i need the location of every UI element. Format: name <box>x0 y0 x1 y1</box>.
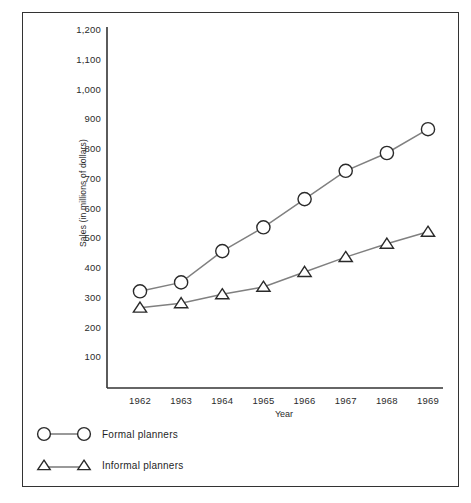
x-axis-title: Year <box>254 409 314 419</box>
data-point-circle <box>298 193 311 206</box>
x-tick-label: 1966 <box>285 395 325 406</box>
series-circle <box>133 123 434 298</box>
y-tick-label: 100 <box>53 351 101 362</box>
x-tick-label: 1967 <box>326 395 366 406</box>
data-point-triangle <box>298 266 311 276</box>
y-tick-label: 1,200 <box>53 24 101 35</box>
data-point-triangle <box>421 226 434 236</box>
series-triangle <box>133 226 434 312</box>
x-tick-label: 1964 <box>202 395 242 406</box>
y-tick-label: 1,000 <box>53 84 101 95</box>
data-point-triangle <box>257 281 270 291</box>
chart-frame: Sales (in millions of dollars) 100200300… <box>22 12 459 487</box>
x-tick-label: 1968 <box>367 395 407 406</box>
data-point-circle <box>421 123 434 136</box>
data-point-circle <box>216 245 229 258</box>
data-point-circle <box>257 221 270 234</box>
chart-figure: Sales (in millions of dollars) 100200300… <box>0 0 471 503</box>
data-point-triangle <box>339 251 352 261</box>
axis-lines <box>107 27 443 388</box>
y-tick-label: 300 <box>53 292 101 303</box>
y-tick-label: 1,100 <box>53 54 101 65</box>
legend-marker-triangle-icon <box>35 456 93 474</box>
legend-label-formal-planners: Formal planners <box>102 429 178 440</box>
legend-label-informal-planners: Informal planners <box>102 460 184 471</box>
y-tick-label: 700 <box>53 173 101 184</box>
data-point-circle <box>380 146 393 159</box>
x-tick-label: 1965 <box>243 395 283 406</box>
data-point-circle <box>175 276 188 289</box>
legend-item-formal-planners: Formal planners <box>35 425 178 443</box>
data-point-circle <box>133 285 146 298</box>
y-tick-label: 400 <box>53 262 101 273</box>
x-tick-label: 1969 <box>408 395 448 406</box>
legend-item-informal-planners: Informal planners <box>35 456 184 474</box>
y-tick-label: 500 <box>53 232 101 243</box>
y-tick-label: 800 <box>53 143 101 154</box>
data-point-circle <box>339 164 352 177</box>
y-tick-label: 600 <box>53 203 101 214</box>
x-tick-label: 1962 <box>120 395 160 406</box>
x-tick-label: 1963 <box>161 395 201 406</box>
y-tick-label: 900 <box>53 113 101 124</box>
y-tick-label: 200 <box>53 322 101 333</box>
legend-marker-circle-icon <box>35 425 93 443</box>
